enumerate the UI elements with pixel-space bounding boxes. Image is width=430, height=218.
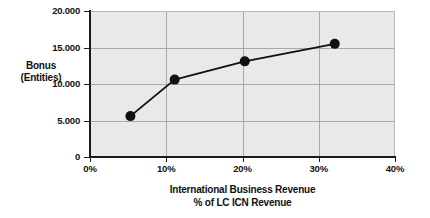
x-tick-label: 0%: [83, 163, 96, 174]
x-axis-title: International Business Revenue % of LC I…: [90, 184, 395, 209]
y-tick-mark: [84, 157, 89, 158]
x-tick-label: 20%: [233, 163, 251, 174]
y-axis-title-line2: (Entities): [2, 72, 80, 84]
y-tick-label: 0: [75, 152, 80, 162]
gridline-vertical: [319, 12, 320, 156]
gridline-vertical: [166, 12, 167, 156]
y-tick-label: 15.000: [52, 43, 80, 53]
y-tick-mark: [84, 48, 89, 49]
gridline-vertical: [243, 12, 244, 156]
x-tick-label: 40%: [386, 163, 404, 174]
y-tick-label: 20.000: [52, 6, 80, 16]
y-tick-mark: [84, 121, 89, 122]
x-axis-title-line1: International Business Revenue: [90, 184, 395, 197]
chart-container: 05.00010.00015.00020.000 0%10%20%30%40% …: [0, 0, 430, 218]
x-tick-mark: [395, 158, 396, 162]
x-tick-mark: [90, 158, 91, 162]
y-tick-mark: [84, 84, 89, 85]
x-tick-label: 30%: [310, 163, 328, 174]
x-tick-mark: [166, 158, 167, 162]
x-tick-mark: [243, 158, 244, 162]
x-tick-label: 10%: [157, 163, 175, 174]
y-axis-line: [89, 10, 91, 158]
y-axis-title: Bonus (Entities): [2, 60, 80, 84]
x-axis-title-line2: % of LC ICN Revenue: [90, 197, 395, 210]
y-axis-title-line1: Bonus: [2, 60, 80, 72]
plot-area: [90, 11, 395, 157]
y-tick-mark: [84, 11, 89, 12]
y-tick-label: 5.000: [57, 116, 80, 126]
x-tick-mark: [319, 158, 320, 162]
